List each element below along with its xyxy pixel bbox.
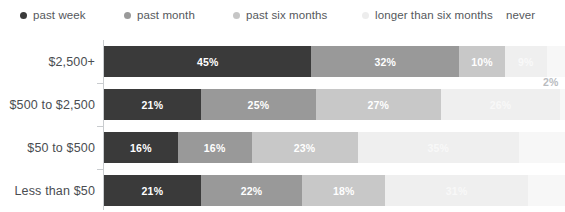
bar-segment-value: 21% — [142, 185, 164, 197]
bar-segment[interactable]: 16% — [178, 132, 252, 163]
legend-item-longer-than-six-months[interactable]: longer than six months — [362, 9, 493, 21]
bar-segment[interactable]: 25% — [201, 89, 316, 120]
legend-item-past-week[interactable]: past week — [20, 9, 86, 21]
bar-segment[interactable]: 16% — [104, 132, 178, 163]
bar-segment-value: 16% — [130, 142, 152, 154]
chart-legend: past weekpast monthpast six monthslonger… — [0, 4, 565, 26]
legend-item-never[interactable]: never — [506, 9, 535, 21]
bar-segment-value: 18% — [333, 185, 355, 197]
bar-segment-value: 10% — [471, 56, 493, 68]
bar-segment[interactable]: 10% — [459, 46, 505, 77]
bar-segment[interactable]: 21% — [104, 175, 201, 206]
bar-segment[interactable]: 35% — [358, 132, 519, 163]
bar-segment[interactable]: 22% — [201, 175, 302, 206]
bar-segment[interactable] — [519, 132, 565, 163]
bar-segment-value: 25% — [248, 99, 270, 111]
legend-item-label: past month — [137, 9, 195, 21]
bar-segment-value: 23% — [294, 142, 316, 154]
legend-swatch-icon — [362, 12, 369, 19]
chart-row: Less than $5021%22%18%31% — [0, 169, 565, 212]
bar-segment[interactable] — [528, 175, 565, 206]
bar-segment-value: 35% — [427, 142, 449, 154]
bar-segment-value: 26% — [490, 99, 512, 111]
legend-swatch-icon — [20, 12, 27, 19]
bar-segment[interactable]: 9% — [505, 46, 546, 77]
legend-item-label: never — [506, 9, 535, 21]
legend-item-label: longer than six months — [375, 9, 493, 21]
bar-segment[interactable] — [547, 46, 565, 77]
bar-segment-value: 21% — [142, 99, 164, 111]
chart-row: $50 to $50016%16%23%35% — [0, 126, 565, 169]
bar-segment-value: 9% — [518, 56, 534, 68]
legend-item-label: past week — [33, 9, 86, 21]
bar-segment-value: 16% — [204, 142, 226, 154]
legend-item-past-six-months[interactable]: past six months — [233, 9, 327, 21]
category-label: $500 to $2,500 — [0, 83, 95, 126]
bar-segment[interactable]: 21% — [104, 89, 201, 120]
bar-segment-value: 22% — [241, 185, 263, 197]
stacked-bar-chart: past weekpast monthpast six monthslonger… — [0, 0, 565, 212]
bar-segment-value: 32% — [374, 56, 396, 68]
axis-tick — [97, 83, 104, 84]
bar-segment[interactable]: 32% — [311, 46, 459, 77]
legend-swatch-icon — [124, 12, 131, 19]
bar-segment[interactable]: 18% — [302, 175, 385, 206]
bar-segment[interactable]: 23% — [252, 132, 358, 163]
legend-swatch-icon — [233, 12, 240, 19]
stacked-bar: 21%25%27%26% — [104, 89, 565, 120]
stacked-bar: 45%32%10%9% — [104, 46, 565, 77]
bar-segment[interactable]: 27% — [316, 89, 440, 120]
bar-segment[interactable]: 31% — [385, 175, 528, 206]
axis-tick — [97, 169, 104, 170]
bar-segment[interactable]: 45% — [104, 46, 311, 77]
bar-segment[interactable]: 26% — [441, 89, 561, 120]
axis-tick — [97, 126, 104, 127]
chart-row: $500 to $2,50021%25%27%26% — [0, 83, 565, 126]
category-label: $50 to $500 — [0, 126, 95, 169]
category-label: $2,500+ — [0, 40, 95, 83]
stacked-bar: 16%16%23%35% — [104, 132, 565, 163]
stacked-bar: 21%22%18%31% — [104, 175, 565, 206]
bar-segment[interactable] — [560, 89, 565, 120]
bar-segment-value: 27% — [367, 99, 389, 111]
legend-item-past-month[interactable]: past month — [124, 9, 195, 21]
bar-segment-value: 31% — [446, 185, 468, 197]
never-callout-label: 2% — [543, 76, 559, 88]
category-label: Less than $50 — [0, 169, 95, 212]
chart-row: $2,500+45%32%10%9% — [0, 40, 565, 83]
chart-plot-area: $2,500+45%32%10%9%$500 to $2,50021%25%27… — [0, 40, 565, 212]
bar-segment-value: 45% — [197, 56, 219, 68]
legend-item-label: past six months — [246, 9, 327, 21]
